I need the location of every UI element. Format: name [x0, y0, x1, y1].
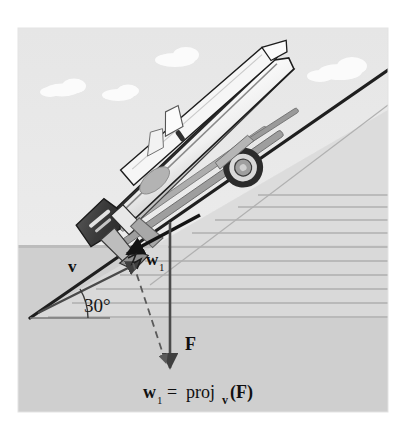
cloud-icon [173, 47, 199, 63]
angle-label: 30° [84, 295, 111, 316]
cloud-icon [307, 70, 333, 82]
equation-equals: = [167, 382, 177, 402]
velocity-vector-label: v [68, 257, 77, 276]
equation-proj-subscript: v [222, 393, 228, 407]
equation-lhs: w [143, 382, 156, 402]
equation-lhs-subscript: 1 [157, 394, 162, 406]
equation-proj: proj [186, 382, 215, 402]
cloud-icon [337, 57, 367, 75]
figure-artwork: v w 1 F 30° w 1 = proj v (F) [18, 28, 388, 412]
cloud-icon [40, 87, 60, 97]
w1-vector-subscript: 1 [159, 261, 164, 273]
force-vector-label: F [185, 334, 196, 354]
w1-vector-label: w [146, 250, 159, 269]
cloud-icon [62, 79, 86, 94]
boat-ramp-vector-diagram: v w 1 F 30° w 1 = proj v (F) [0, 0, 405, 430]
equation-argument: (F) [230, 382, 253, 403]
figure-container: v w 1 F 30° w 1 = proj v (F) [0, 0, 405, 430]
cloud-icon [117, 85, 139, 98]
